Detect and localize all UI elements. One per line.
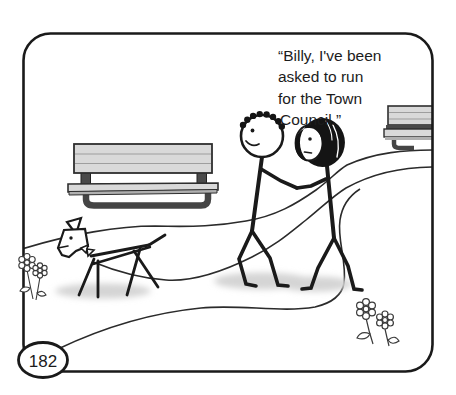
bench-backrest (74, 144, 212, 173)
speech-line-1: “Billy, I've been (278, 47, 381, 64)
page-number-badge: 182 (19, 343, 68, 378)
dog-tail (149, 235, 165, 245)
bench-seat (384, 129, 446, 137)
dog-shadow (55, 284, 151, 299)
man-arm (261, 169, 297, 188)
man-eye (251, 129, 255, 133)
flower-leaf (20, 287, 30, 292)
dog-eye (69, 236, 72, 239)
flower-stem (385, 329, 389, 346)
speech-line-2: asked to run (278, 68, 363, 85)
speech-line-4: Council.” (280, 111, 341, 128)
flower-bloom (377, 311, 394, 329)
flower-stem (366, 318, 373, 344)
woman-eye (308, 137, 312, 141)
flower-bloom (33, 263, 47, 278)
park-bench-left (68, 144, 218, 206)
speech-text: “Billy, I've been asked to run for the T… (278, 47, 381, 129)
bench-backrest (388, 106, 448, 125)
flower-stem (36, 277, 40, 300)
comic-panel-page: “Billy, I've been asked to run for the T… (0, 0, 456, 395)
flower-stem (27, 270, 33, 299)
flower-leaf (37, 291, 46, 296)
flowers-bottom-right (357, 299, 399, 346)
page-number: 182 (29, 352, 57, 371)
flower-leaf (388, 337, 399, 343)
flower-bloom (357, 299, 376, 320)
stick-woman (295, 118, 362, 290)
comic-panel-art: “Billy, I've been asked to run for the T… (0, 0, 456, 395)
dog-leg (134, 251, 158, 287)
woman-mouth (305, 152, 312, 153)
dog-head (58, 229, 88, 257)
dog-collar-bow (81, 245, 94, 256)
park-bench-right-partial (384, 106, 448, 148)
bench-frame (394, 139, 414, 148)
flower-leaf (357, 333, 370, 339)
speech-line-3: for the Town (278, 90, 362, 107)
bench-seat-edge (385, 137, 446, 140)
